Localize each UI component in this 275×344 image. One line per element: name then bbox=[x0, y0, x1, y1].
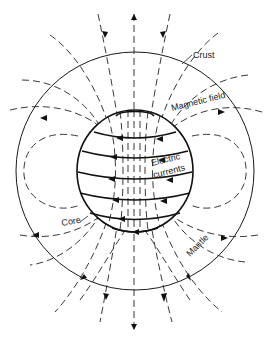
mantle-label: Mantle bbox=[184, 232, 210, 258]
magnetic-field-label: Magnetic field bbox=[170, 90, 226, 113]
crust-label: Crust bbox=[193, 50, 215, 60]
core-leader bbox=[80, 216, 88, 222]
geodynamo-diagram: Crust Magnetic field Electric currents C… bbox=[0, 0, 275, 344]
crust-leader bbox=[182, 55, 192, 64]
core-label: Core bbox=[61, 215, 82, 228]
